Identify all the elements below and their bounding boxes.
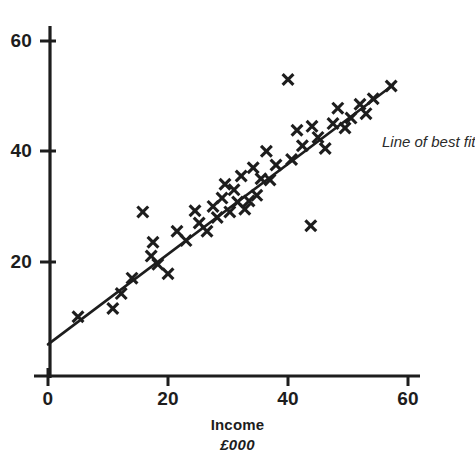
data-point-marker bbox=[236, 171, 247, 182]
data-point-marker bbox=[261, 146, 272, 157]
line-of-best-fit-annotation: Line of best fit bbox=[382, 133, 475, 150]
x-tick-label-40: 40 bbox=[268, 388, 308, 410]
data-point-marker bbox=[148, 237, 159, 248]
x-axis-units-label: £000 bbox=[0, 436, 475, 453]
data-point-marker bbox=[368, 93, 379, 104]
y-tick-label-60: 60 bbox=[0, 30, 32, 52]
y-axis-ticks bbox=[40, 41, 56, 262]
data-point-marker bbox=[248, 162, 259, 173]
data-point-marker bbox=[297, 140, 308, 151]
data-point-marker bbox=[202, 226, 213, 237]
y-tick-label-40: 40 bbox=[0, 140, 32, 162]
data-point-marker bbox=[328, 118, 339, 129]
data-point-marker bbox=[172, 226, 183, 237]
data-point-marker bbox=[163, 268, 174, 279]
data-point-marker bbox=[361, 108, 372, 119]
data-point-marker bbox=[332, 103, 343, 114]
x-tick-label-60: 60 bbox=[388, 388, 428, 410]
scatter-chart: 60 40 20 0 20 40 60 Income £000 Line of … bbox=[0, 0, 475, 464]
data-point-marker bbox=[217, 193, 228, 204]
data-point-marker bbox=[305, 220, 316, 231]
data-point-marker bbox=[137, 207, 148, 218]
data-point-marker bbox=[107, 303, 118, 314]
data-point-marker bbox=[212, 212, 223, 223]
data-point-marker bbox=[340, 123, 351, 134]
data-point-marker bbox=[283, 74, 294, 85]
x-tick-label-0: 0 bbox=[28, 388, 68, 410]
data-point-marker bbox=[320, 143, 331, 154]
data-point-markers bbox=[73, 74, 397, 322]
x-axis-title: Income bbox=[0, 416, 475, 433]
data-point-marker bbox=[271, 160, 282, 171]
data-point-marker bbox=[190, 205, 201, 216]
data-point-marker bbox=[181, 235, 192, 246]
x-tick-label-20: 20 bbox=[148, 388, 188, 410]
data-point-marker bbox=[292, 125, 303, 136]
data-point-marker bbox=[307, 121, 318, 132]
data-point-marker bbox=[386, 81, 397, 92]
data-point-marker bbox=[355, 99, 366, 110]
y-tick-label-20: 20 bbox=[0, 251, 32, 273]
